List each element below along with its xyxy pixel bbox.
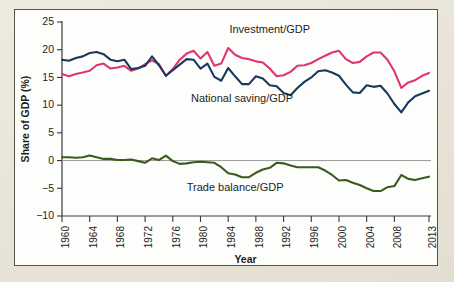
y-axis-tick-label: 25: [42, 15, 54, 27]
x-axis-tick-label: 1988: [254, 226, 265, 249]
x-axis-tick-label: 2013: [427, 226, 437, 249]
x-axis-title: Year: [234, 253, 256, 265]
series-annotation: Trade balance/GDP: [187, 181, 284, 193]
x-axis-tick-label: 1968: [115, 226, 126, 249]
chart-plot-svg: 2520151050−5−10 196019641968197219761980…: [15, 10, 437, 265]
series-annotation: Investment/GDP: [229, 23, 310, 35]
axis-titles-group: YearShare of GDP (%): [19, 76, 257, 265]
y-axis-tick-label: −5: [42, 182, 54, 194]
chart-panel: 2520151050−5−10 196019641968197219761980…: [14, 9, 438, 266]
series-annotation: National saving/GDP: [191, 92, 293, 104]
x-axis-group: 1960196419681972197619801984198819921996…: [60, 216, 437, 248]
x-axis-tick-label: 1996: [309, 226, 320, 249]
x-axis-tick-label: 2008: [392, 226, 403, 249]
x-axis-tick-label: 1972: [143, 226, 154, 249]
y-axis-title: Share of GDP (%): [19, 76, 31, 163]
series-group: [62, 48, 429, 191]
x-axis-tick-label: 1976: [171, 226, 182, 249]
y-axis-group: 2520151050−5−10: [36, 15, 62, 221]
y-axis-tick-label: 5: [48, 126, 54, 138]
x-axis-tick-label: 1980: [198, 226, 209, 249]
y-axis-tick-label: −10: [36, 209, 54, 221]
y-axis-tick-label: 10: [42, 98, 54, 110]
annotation-group: Investment/GDPNational saving/GDPTrade b…: [187, 23, 310, 192]
x-axis-tick-label: 1984: [226, 226, 237, 249]
x-axis-tick-label: 2000: [337, 226, 348, 249]
series-line-investment-gdp: [62, 48, 429, 88]
x-axis-tick-label: 2004: [365, 226, 376, 249]
x-axis-tick-label: 1960: [60, 226, 71, 249]
chart-figure: 2520151050−5−10 196019641968197219761980…: [0, 0, 454, 282]
y-axis-tick-label: 0: [48, 154, 54, 166]
x-axis-tick-label: 1992: [281, 226, 292, 249]
y-axis-tick-label: 15: [42, 71, 54, 83]
y-axis-tick-label: 20: [42, 43, 54, 55]
x-axis-tick-label: 1964: [88, 226, 99, 249]
